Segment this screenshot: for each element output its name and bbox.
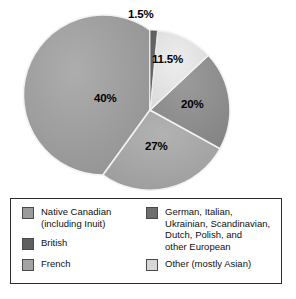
legend-label-french: French bbox=[41, 258, 71, 270]
legend-label-other-asian: Other (mostly Asian) bbox=[165, 258, 251, 270]
legend-label-european-line1: German, Italian, bbox=[165, 206, 233, 217]
slice-label-british: 1.5% bbox=[128, 8, 153, 20]
slice-label-other-asian: 11.5% bbox=[152, 53, 183, 65]
legend-item-french: French bbox=[22, 258, 144, 271]
legend-label-british: British bbox=[41, 237, 67, 249]
slice-label-european: 20% bbox=[181, 98, 203, 110]
legend-swatch-native-canadian bbox=[22, 207, 34, 219]
legend-item-native-canadian: Native Canadian (including Inuit) bbox=[22, 206, 144, 229]
legend-label-european-line4: other European bbox=[165, 241, 231, 252]
legend-label-european-line2: Ukrainian, Scandinavian, bbox=[165, 218, 270, 229]
legend-label-european: German, Italian, Ukrainian, Scandinavian… bbox=[165, 206, 270, 252]
legend-swatch-other-asian bbox=[146, 259, 158, 271]
slice-label-native-canadian: 40% bbox=[94, 92, 116, 104]
legend-label-native-canadian-line1: Native Canadian bbox=[41, 206, 111, 217]
legend-swatch-british bbox=[22, 238, 34, 250]
legend-column-right: German, Italian, Ukrainian, Scandinavian… bbox=[144, 206, 281, 283]
legend-item-european: German, Italian, Ukrainian, Scandinavian… bbox=[146, 206, 281, 252]
legend-column-left: Native Canadian (including Inuit) Britis… bbox=[11, 206, 144, 283]
legend: Native Canadian (including Inuit) Britis… bbox=[10, 198, 282, 284]
legend-label-native-canadian-line2: (including Inuit) bbox=[41, 218, 105, 229]
legend-label-european-line3: Dutch, Polish, and bbox=[165, 229, 242, 240]
legend-swatch-european bbox=[146, 207, 158, 219]
pie-chart bbox=[0, 0, 296, 192]
legend-label-native-canadian: Native Canadian (including Inuit) bbox=[41, 206, 111, 229]
legend-item-other-asian: Other (mostly Asian) bbox=[146, 258, 281, 271]
slice-label-french: 27% bbox=[145, 140, 167, 152]
pie-chart-figure: 1.5% 11.5% 20% 27% 40% Native Canadian (… bbox=[0, 0, 296, 299]
legend-item-british: British bbox=[22, 237, 144, 250]
legend-swatch-french bbox=[22, 259, 34, 271]
chart-area: 1.5% 11.5% 20% 27% 40% bbox=[0, 0, 296, 192]
